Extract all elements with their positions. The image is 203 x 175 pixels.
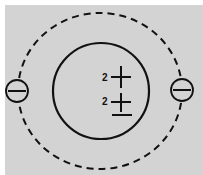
electron-right xyxy=(171,79,193,101)
atom-diagram: 2 2 xyxy=(0,0,203,175)
nucleus-circle xyxy=(53,43,149,139)
electron-orbit xyxy=(18,13,182,169)
plus-minus-icon xyxy=(111,93,132,115)
nucleus-charge-2: 2 xyxy=(102,93,132,115)
nucleus-charge-1: 2 xyxy=(102,66,131,88)
electron-left xyxy=(6,80,28,102)
charge-coefficient: 2 xyxy=(102,72,108,83)
charge-coefficient: 2 xyxy=(102,96,108,107)
plus-icon xyxy=(111,66,131,88)
